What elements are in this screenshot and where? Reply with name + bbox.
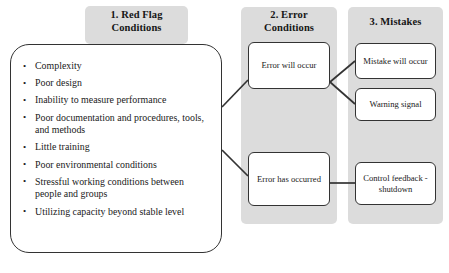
node-warning-signal: Warning signal: [355, 88, 436, 121]
list-item: Utilizing capacity beyond stable level: [35, 206, 211, 219]
list-item: Stressful working conditions between peo…: [35, 176, 211, 201]
node-mistake-will-occur: Mistake will occur: [355, 43, 436, 79]
list-item: Poor documentation and procedures, tools…: [35, 112, 211, 137]
node-error-has-occurred: Error has occurred: [248, 152, 330, 206]
list-item: Poor design: [35, 77, 211, 90]
column-heading-line1: 3. Mistakes: [348, 16, 443, 29]
list-item: Complexity: [35, 60, 211, 73]
node-control-feedback-shutdown: Control feedback -shutdown: [355, 162, 436, 205]
node-error-will-occur: Error will occur: [248, 42, 330, 89]
node-label: Warning signal: [369, 99, 421, 110]
node-label: Error will occur: [262, 60, 317, 71]
flow-diagram: 1. Red Flag Conditions 2. Error Conditio…: [0, 0, 449, 273]
node-label: Error has occurred: [257, 174, 321, 185]
node-label: Control feedback -shutdown: [360, 173, 431, 194]
column-heading-line2: Conditions: [85, 22, 188, 35]
red-flag-conditions-list: Complexity Poor design Inability to meas…: [11, 45, 221, 218]
column-heading-line2: Conditions: [241, 22, 337, 35]
column-heading-line1: 2. Error: [241, 9, 337, 22]
node-label: Mistake will occur: [363, 56, 427, 67]
column-heading-error-conditions: 2. Error Conditions: [241, 9, 337, 34]
red-flag-conditions-box: Complexity Poor design Inability to meas…: [10, 44, 222, 253]
column-heading-mistakes: 3. Mistakes: [348, 16, 443, 29]
column-heading-red-flag-conditions: 1. Red Flag Conditions: [85, 9, 188, 34]
list-item: Poor environmental conditions: [35, 159, 211, 172]
list-item: Little training: [35, 141, 211, 154]
list-item: Inability to measure performance: [35, 94, 211, 107]
column-heading-line1: 1. Red Flag: [85, 9, 188, 22]
